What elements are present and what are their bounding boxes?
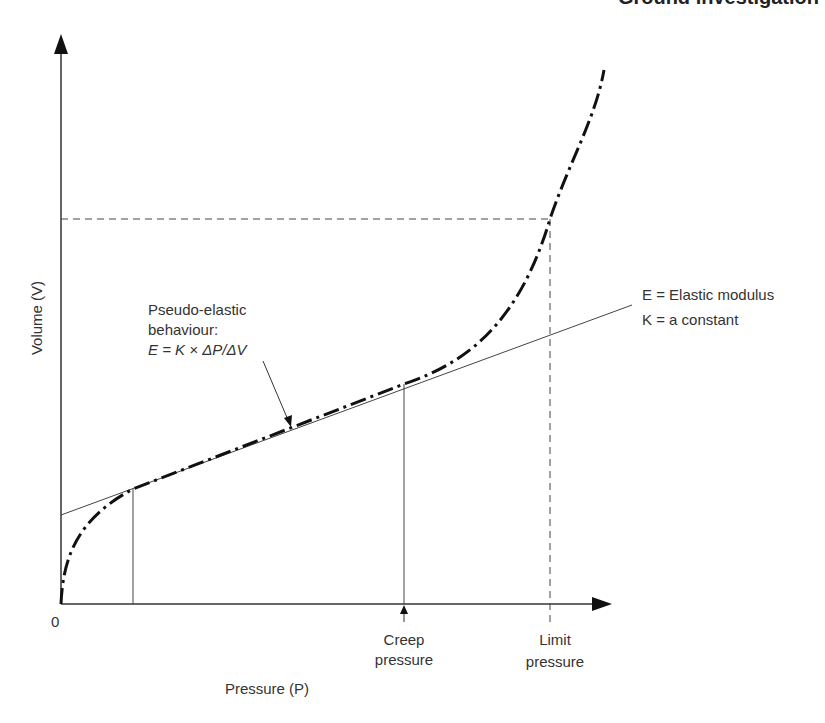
x-axis-arrow-icon bbox=[592, 597, 612, 611]
legend-elastic-modulus: E = Elastic modulus bbox=[642, 286, 774, 303]
pressuremeter-curve bbox=[61, 70, 604, 604]
legend-constant: K = a constant bbox=[642, 311, 739, 328]
limit-label-line1: Limit bbox=[539, 631, 572, 648]
annotation-line2: behaviour: bbox=[148, 321, 218, 338]
y-axis-arrow-icon bbox=[54, 34, 68, 54]
annotation-line1: Pseudo-elastic bbox=[148, 301, 247, 318]
creep-label-line1: Creep bbox=[384, 631, 425, 648]
origin-label: 0 bbox=[51, 613, 59, 630]
pressuremeter-diagram: Volume (V) Pressure (P) 0 Pseudo-elastic… bbox=[0, 0, 825, 723]
y-axis-label: Volume (V) bbox=[28, 281, 45, 355]
creep-marker-arrow-icon bbox=[400, 605, 408, 614]
creep-label-line2: pressure bbox=[375, 651, 433, 668]
annotation-formula: E = K × ΔP/ΔV bbox=[148, 341, 248, 358]
annotation-pointer bbox=[263, 361, 288, 420]
x-axis-label: Pressure (P) bbox=[225, 680, 309, 697]
limit-label-line2: pressure bbox=[526, 653, 584, 670]
annotation-arrow-icon bbox=[284, 415, 292, 427]
